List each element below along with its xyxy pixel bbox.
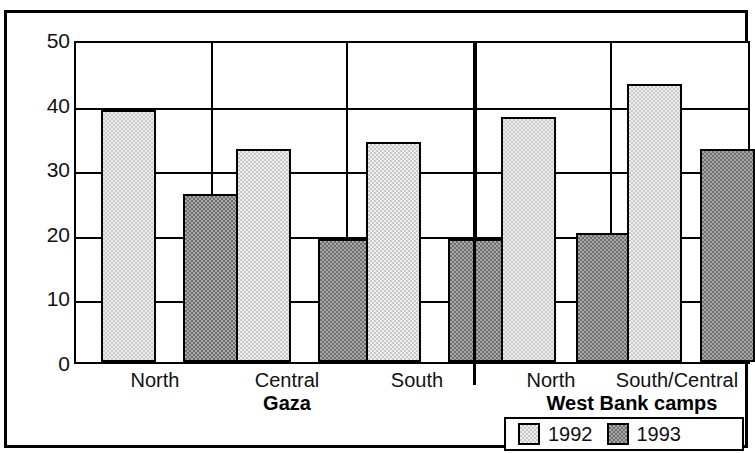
bar-westbank-north-1993 <box>576 233 631 362</box>
y-tick-50: 50 <box>14 29 70 53</box>
bar-gaza-central-1993 <box>318 239 373 362</box>
legend-entry-1992: 1992 <box>518 423 593 446</box>
bar-gaza-north-1992 <box>101 110 156 362</box>
bar-westbank-north-1992 <box>501 117 556 363</box>
group-separator <box>473 41 476 385</box>
y-tick-0: 0 <box>14 352 70 376</box>
legend-swatch-1992-icon <box>518 423 540 445</box>
x-label-gaza-central: Central <box>232 369 342 392</box>
x-label-gaza-south: South <box>362 369 472 392</box>
y-axis: 50 40 30 20 10 0 <box>7 41 70 364</box>
group-label-gaza: Gaza <box>232 392 342 415</box>
x-label-westbank-southcentral: South/Central <box>602 369 752 392</box>
legend: 1992 1993 <box>504 417 744 451</box>
bar-gaza-south-1992 <box>366 142 421 362</box>
plot-area <box>74 41 750 364</box>
figure-frame: 50 40 30 20 10 0 North Central South Nor… <box>4 10 748 448</box>
group-label-west-bank-camps: West Bank camps <box>517 392 747 415</box>
legend-entry-1993: 1993 <box>607 423 682 446</box>
bar-westbank-southcentral-1992 <box>627 84 682 362</box>
bar-gaza-north-1993 <box>183 194 238 362</box>
x-label-westbank-north: North <box>496 369 606 392</box>
y-tick-10: 10 <box>14 287 70 311</box>
bar-westbank-southcentral-1993 <box>700 149 755 362</box>
y-tick-20: 20 <box>14 223 70 247</box>
y-tick-30: 30 <box>14 158 70 182</box>
legend-swatch-1993-icon <box>607 423 629 445</box>
legend-label-1992: 1992 <box>548 423 593 446</box>
bar-gaza-central-1992 <box>236 149 291 362</box>
cropped-caption-text <box>0 0 754 7</box>
y-tick-40: 40 <box>14 94 70 118</box>
x-label-gaza-north: North <box>100 369 210 392</box>
legend-label-1993: 1993 <box>637 423 682 446</box>
